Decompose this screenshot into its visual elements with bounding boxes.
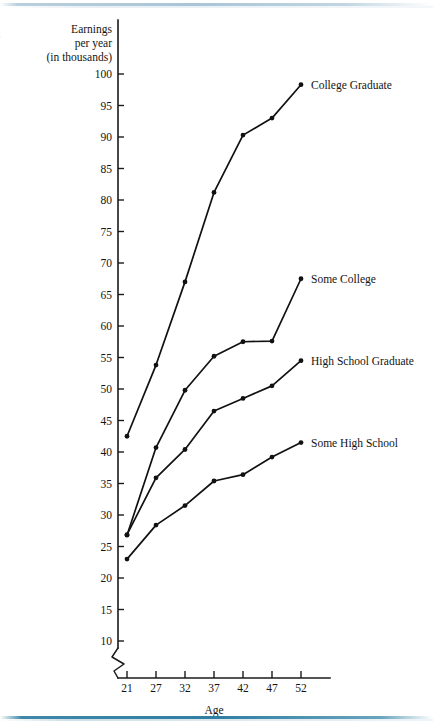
page-rule-bottom-secondary (0, 719, 433, 721)
y-tick-label: 50 (101, 383, 113, 395)
y-tick-label: 70 (101, 257, 113, 269)
series-data-point (183, 447, 188, 452)
data-series (125, 82, 304, 561)
series-data-point (212, 479, 217, 484)
series-data-point (270, 339, 275, 344)
y-tick-label: 90 (101, 131, 113, 143)
series-data-point (212, 409, 217, 414)
series-data-point (183, 388, 188, 393)
y-tick-label: 95 (101, 100, 113, 112)
series-data-point (299, 276, 304, 281)
series-data-point (241, 472, 246, 477)
series-label: Some High School (311, 437, 398, 450)
figure-page: e Earningsper year(in thousands) 1015202… (0, 0, 433, 726)
y-tick-label: 100 (95, 68, 113, 80)
series-data-point (241, 133, 246, 138)
series-data-point (154, 445, 159, 450)
series-line (127, 279, 301, 535)
x-tick-label: 42 (237, 682, 249, 694)
series-data-point (212, 190, 217, 195)
series-data-point (183, 503, 188, 508)
y-tick-label: 25 (101, 541, 113, 553)
y-tick-label: 10 (101, 635, 113, 647)
series-data-point (299, 440, 304, 445)
series-data-point (183, 280, 188, 285)
series-data-point (241, 339, 246, 344)
y-tick-label: 45 (101, 415, 113, 427)
series-data-point (241, 396, 246, 401)
series-labels: College GraduateSome CollegeHigh School … (311, 79, 414, 450)
series-data-point (212, 354, 217, 359)
series-data-point (270, 455, 275, 460)
series-label: High School Graduate (311, 355, 414, 368)
y-axis-title-line: per year (75, 37, 113, 50)
series-label: College Graduate (311, 79, 392, 92)
y-tick-label: 55 (101, 352, 113, 364)
earnings-by-age-line-chart: Earningsper year(in thousands) 101520253… (0, 0, 433, 726)
series-data-point (270, 116, 275, 121)
x-tick-label: 27 (150, 682, 162, 694)
series-data-point (125, 532, 130, 537)
x-tick-label: 52 (295, 682, 307, 694)
series-data-point (125, 434, 130, 439)
y-tick-label: 85 (101, 163, 113, 175)
series-data-point (154, 363, 159, 368)
y-tick-label: 30 (101, 509, 113, 521)
y-tick-label: 75 (101, 226, 113, 238)
series-data-point (154, 523, 159, 528)
series-line (127, 361, 301, 535)
series-label: Some College (311, 273, 376, 286)
x-axis-ticks: 21273237424752 (121, 671, 307, 694)
y-tick-label: 35 (101, 478, 113, 490)
series-line (127, 443, 301, 560)
series-data-point (154, 475, 159, 480)
y-tick-label: 65 (101, 289, 113, 301)
y-tick-label: 15 (101, 604, 113, 616)
y-tick-label: 20 (101, 572, 113, 584)
y-tick-label: 60 (101, 320, 113, 332)
y-axis-title-line: (in thousands) (47, 51, 113, 64)
series-data-point (299, 82, 304, 87)
y-tick-label: 40 (101, 446, 113, 458)
series-data-point (270, 383, 275, 388)
x-tick-label: 21 (121, 682, 133, 694)
y-tick-label: 80 (101, 194, 113, 206)
y-axis-break-symbol (112, 648, 124, 678)
axis-lines (112, 20, 330, 678)
x-tick-label: 47 (266, 682, 278, 694)
x-tick-label: 32 (179, 682, 191, 694)
series-data-point (125, 557, 130, 562)
y-axis-title: Earningsper year(in thousands) (47, 23, 113, 64)
x-tick-label: 37 (208, 682, 220, 694)
y-axis-title-line: Earnings (71, 23, 112, 36)
y-axis-ticks: 101520253035404550556065707580859095100 (95, 68, 124, 647)
series-data-point (299, 358, 304, 363)
